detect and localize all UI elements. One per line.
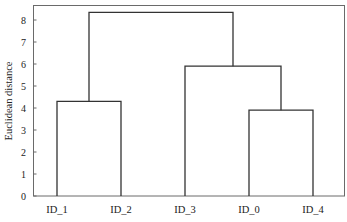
leaf-label: ID_2 [110, 204, 132, 215]
y-tick-label: 1 [21, 169, 26, 180]
y-tick-label: 4 [21, 103, 26, 114]
dendrogram-chart: 012345678 ID_1ID_2ID_3ID_0ID_4 Euclidean… [0, 0, 347, 222]
cluster-link [185, 66, 281, 196]
leaf-label: ID_1 [46, 204, 68, 215]
leaf-label: ID_0 [238, 204, 260, 215]
y-tick-label: 0 [21, 191, 26, 202]
y-axis-title: Euclidean distance [3, 61, 14, 140]
leaf-label: ID_3 [174, 204, 196, 215]
y-tick-label: 8 [21, 15, 26, 26]
leaf-label: ID_4 [302, 204, 324, 215]
cluster-link [249, 110, 313, 196]
y-tick-label: 7 [21, 37, 26, 48]
y-tick-label: 5 [21, 81, 26, 92]
y-tick-label: 3 [21, 125, 26, 136]
cluster-link [89, 12, 233, 101]
dendrogram-links [57, 12, 313, 196]
x-axis-labels: ID_1ID_2ID_3ID_0ID_4 [46, 204, 324, 215]
y-axis: 012345678 [21, 15, 37, 202]
y-tick-label: 2 [21, 147, 26, 158]
y-tick-label: 6 [21, 59, 26, 70]
cluster-link [57, 101, 121, 196]
